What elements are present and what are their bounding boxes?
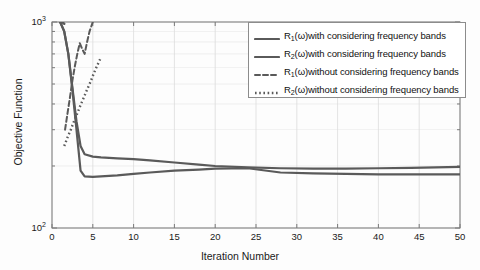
- legend-label: R1(ω)without considering frequency bands: [284, 66, 459, 77]
- legend-item: R2(ω)without considering frequency bands: [249, 80, 465, 98]
- x-tick-label: 5: [81, 231, 105, 242]
- x-tick-label: 50: [448, 231, 472, 242]
- y-axis-label-wrap: Objective Function: [6, 60, 22, 190]
- x-tick-label: 40: [366, 231, 390, 242]
- x-tick-label: 25: [244, 231, 268, 242]
- y-tick-label: 102: [16, 221, 46, 233]
- legend-item: R1(ω)without considering frequency bands: [249, 62, 465, 80]
- y-axis-label: Objective Function: [12, 62, 24, 182]
- x-tick-label: 35: [326, 231, 350, 242]
- x-tick-label: 30: [285, 231, 309, 242]
- x-tick-label: 10: [122, 231, 146, 242]
- chart-legend: R1(ω)with considering frequency bandsR2(…: [248, 22, 466, 98]
- legend-item: R2(ω)with considering frequency bands: [249, 44, 465, 62]
- x-tick-label: 15: [162, 231, 186, 242]
- legend-line-sample: [254, 48, 280, 58]
- x-tick-label: 45: [407, 231, 431, 242]
- x-tick-label: 20: [203, 231, 227, 242]
- legend-item: R1(ω)with considering frequency bands: [249, 26, 465, 44]
- legend-label: R2(ω)with considering frequency bands: [284, 48, 446, 59]
- legend-label: R1(ω)with considering frequency bands: [284, 30, 446, 41]
- chart-screenshot: Objective Function Iteration Number 0510…: [0, 0, 480, 270]
- legend-line-sample: [254, 30, 280, 40]
- legend-line-sample: [254, 84, 280, 94]
- legend-line-sample: [254, 66, 280, 76]
- series-line-R1-without-bands: [65, 22, 93, 130]
- x-axis-label: Iteration Number: [0, 250, 480, 262]
- y-tick-label: 103: [16, 15, 46, 27]
- legend-label: R2(ω)without considering frequency bands: [284, 84, 459, 95]
